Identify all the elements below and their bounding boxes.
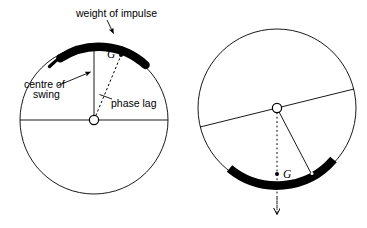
left-flywheel-group: weight of impulse centre of swing phase … (20, 7, 168, 194)
weight-of-impulse-leader (107, 20, 114, 34)
weight-of-impulse-label: weight of impulse (75, 7, 157, 19)
right-centre-of-mass-label: G (283, 168, 292, 180)
left-centre-of-mass-label: G (107, 48, 116, 60)
left-hub (89, 115, 98, 124)
right-hub (272, 103, 281, 112)
diagram-figure: weight of impulse centre of swing phase … (0, 0, 367, 228)
right-g-dot (275, 172, 279, 176)
right-flywheel-group: G (198, 29, 356, 214)
right-arc-marker-dot (311, 172, 314, 175)
centre-of-swing-label-line2: swing (33, 88, 60, 100)
diagram-canvas: weight of impulse centre of swing phase … (0, 0, 367, 228)
left-g-dot (119, 53, 123, 57)
phase-lag-label: phase lag (111, 97, 157, 109)
